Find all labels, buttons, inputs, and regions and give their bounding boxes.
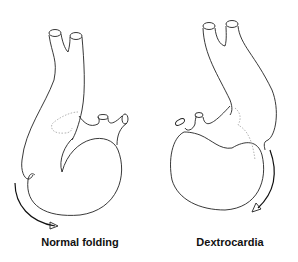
normal-folding-label: Normal folding xyxy=(30,236,130,248)
normal-heart-drawing xyxy=(15,30,128,230)
heart-folding-diagram xyxy=(0,0,298,262)
dextrocardia-label: Dextrocardia xyxy=(180,236,280,248)
dextrocardia-heart-drawing xyxy=(171,21,277,213)
